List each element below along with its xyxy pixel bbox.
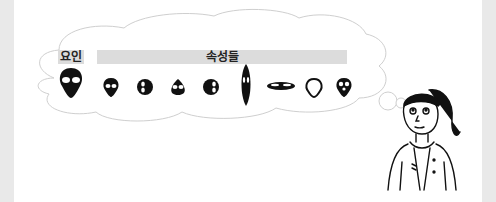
diagram-canvas: 요인 속성들	[14, 0, 482, 202]
girl-thinking-illustration	[14, 0, 482, 202]
